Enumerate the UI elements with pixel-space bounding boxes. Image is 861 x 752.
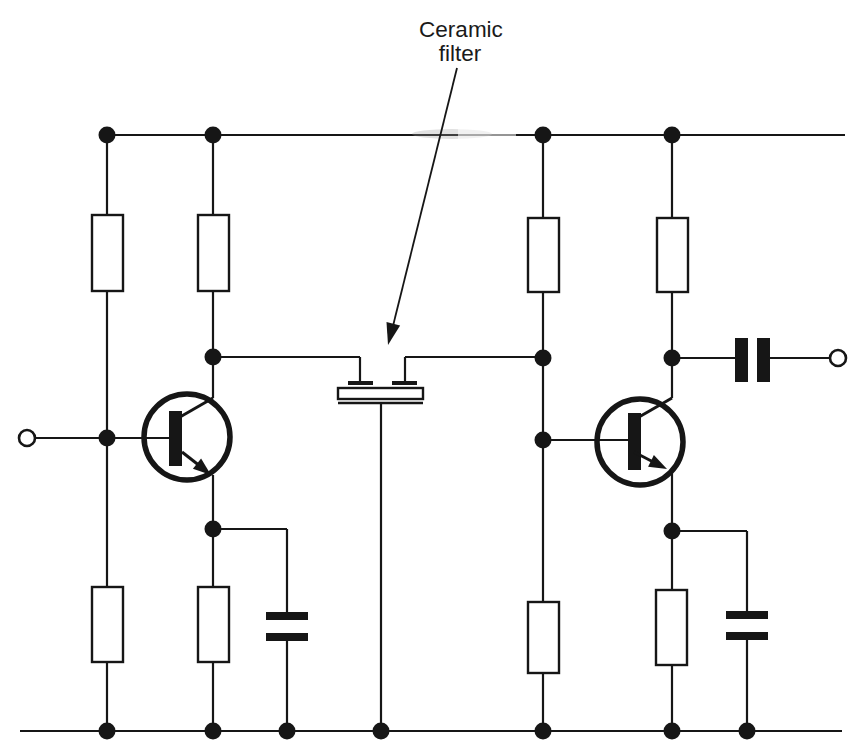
junction-dot bbox=[205, 521, 222, 538]
junction-dot bbox=[535, 127, 552, 144]
bias-resistor-lower-right bbox=[528, 602, 559, 673]
collector-resistor-right bbox=[657, 218, 688, 292]
capacitor-plate-top bbox=[726, 611, 768, 619]
output-coupling-capacitor bbox=[735, 338, 770, 382]
bias-resistor-lower-left bbox=[92, 587, 123, 662]
junction-dot bbox=[279, 723, 296, 740]
transistor-right bbox=[597, 398, 683, 485]
junction-dot bbox=[205, 723, 222, 740]
bias-resistor-upper-left bbox=[92, 215, 123, 291]
bias-resistor-upper-right bbox=[528, 218, 559, 292]
input-terminal bbox=[19, 430, 35, 446]
output-terminal bbox=[830, 350, 846, 366]
transistor-base-bar bbox=[169, 411, 182, 466]
capacitor-plate-bottom bbox=[726, 632, 768, 640]
emitter-resistor-left bbox=[198, 587, 229, 662]
junction-dot bbox=[205, 127, 222, 144]
capacitor-plate-bottom bbox=[266, 633, 308, 641]
label-arrow-line bbox=[392, 68, 457, 330]
junction-dot bbox=[99, 723, 116, 740]
column-wires bbox=[107, 135, 672, 731]
junction-dot bbox=[664, 523, 681, 540]
filter-terminal-pad-right bbox=[392, 381, 417, 385]
junction-dot bbox=[664, 723, 681, 740]
filter-terminal-pad-left bbox=[348, 381, 373, 385]
junction-dot bbox=[99, 127, 116, 144]
emitter-bypass-capacitor-right bbox=[726, 611, 768, 640]
ceramic-filter bbox=[338, 357, 423, 731]
junction-dot bbox=[664, 127, 681, 144]
emitter-arrowhead bbox=[648, 455, 667, 469]
circuit-schematic: Ceramic filter bbox=[0, 0, 861, 752]
capacitor-plate-right bbox=[757, 338, 770, 382]
junction-dot bbox=[535, 723, 552, 740]
label-arrowhead bbox=[387, 322, 401, 345]
transistor-base-bar bbox=[628, 413, 641, 470]
label-line-1: Ceramic bbox=[419, 17, 503, 42]
junction-dot bbox=[99, 430, 116, 447]
collector-lead bbox=[180, 398, 213, 417]
schematic-page: Ceramic filter bbox=[0, 0, 861, 752]
capacitor-plate-left bbox=[735, 338, 748, 382]
ceramic-filter-label: Ceramic filter bbox=[387, 17, 503, 345]
filter-body bbox=[338, 388, 423, 399]
collector-resistor-left bbox=[198, 215, 229, 291]
junction-dot bbox=[664, 350, 681, 367]
junction-dot bbox=[373, 723, 390, 740]
junction-dot bbox=[535, 350, 552, 367]
emitter-bypass-capacitor-left bbox=[266, 612, 308, 641]
emitter-resistor-right bbox=[656, 590, 687, 665]
capacitor-plate-top bbox=[266, 612, 308, 620]
label-line-2: filter bbox=[439, 41, 482, 66]
junction-dot bbox=[739, 723, 756, 740]
junction-dot bbox=[205, 349, 222, 366]
junction-dot bbox=[535, 432, 552, 449]
scan-fade bbox=[458, 129, 516, 139]
